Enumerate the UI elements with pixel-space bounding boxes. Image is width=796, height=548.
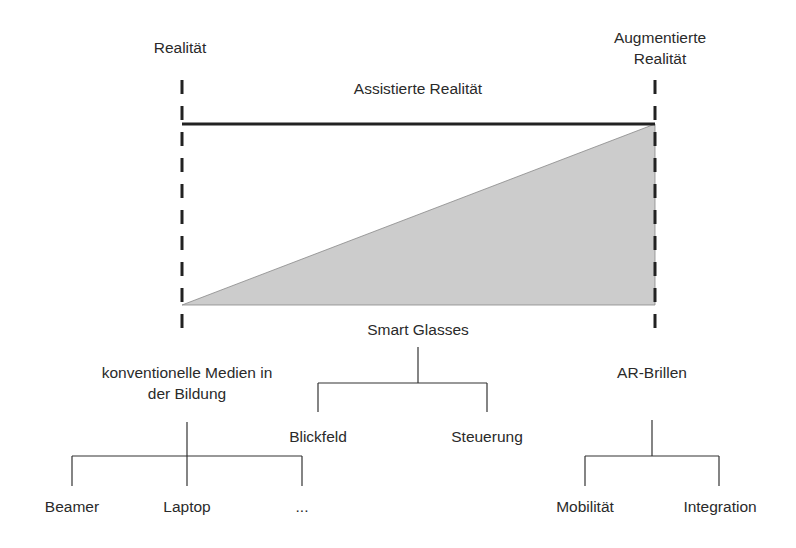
augmented-reality-label-line1: Augmentierte	[580, 28, 740, 48]
conventional-media-label-line2: der Bildung	[67, 384, 307, 404]
conventional-media-label-line1: konventionelle Medien in	[67, 363, 307, 383]
ar-glasses-label: AR-Brillen	[600, 363, 704, 383]
integration-label: Integration	[665, 497, 775, 517]
beamer-label: Beamer	[27, 497, 117, 517]
blickfeld-label: Blickfeld	[272, 427, 364, 447]
augmentation-wedge	[182, 124, 655, 305]
conventional-media-tree-connector	[72, 422, 302, 486]
ar-glasses-tree-connector	[585, 420, 719, 486]
laptop-label: Laptop	[142, 497, 232, 517]
ellipsis-label: ...	[272, 497, 332, 517]
mobilitaet-label: Mobilität	[535, 497, 635, 517]
smart-glasses-label: Smart Glasses	[343, 320, 493, 340]
steuerung-label: Steuerung	[435, 427, 539, 447]
smart-glasses-tree-connector	[318, 347, 487, 412]
reality-label: Realität	[140, 38, 220, 58]
augmented-reality-label-line2: Realität	[580, 49, 740, 69]
assisted-reality-label: Assistierte Realität	[318, 79, 518, 99]
